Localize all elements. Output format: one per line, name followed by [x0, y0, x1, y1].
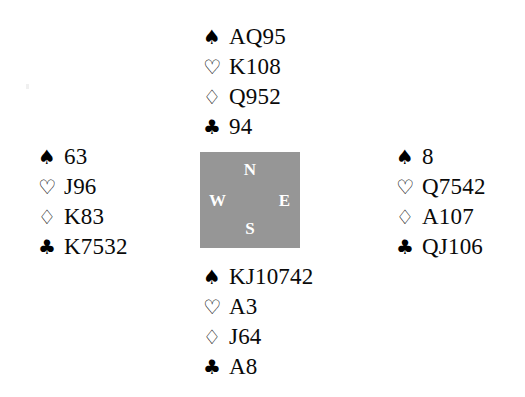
- hand-south-spades: KJ10742: [229, 262, 313, 292]
- hand-west-clubs-row: ♣ K7532: [38, 232, 128, 262]
- club-icon: ♣: [203, 112, 229, 142]
- hand-east-diamonds: A107: [422, 202, 474, 232]
- hand-south-diamonds: J64: [229, 322, 262, 352]
- scan-artifact: [26, 84, 29, 89]
- spade-icon: ♠: [38, 142, 64, 172]
- hand-south-diamonds-row: ♢ J64: [203, 322, 313, 352]
- bridge-hand-diagram: ♠ AQ95 ♡ K108 ♢ Q952 ♣ 94 ♠ 63 ♡ J96 ♢ K…: [0, 0, 525, 397]
- hand-south: ♠ KJ10742 ♡ A3 ♢ J64 ♣ A8: [203, 262, 313, 382]
- club-icon: ♣: [203, 352, 229, 382]
- club-icon: ♣: [38, 232, 64, 262]
- spade-icon: ♠: [203, 262, 229, 292]
- hand-north-spades: AQ95: [229, 22, 286, 52]
- diamond-icon: ♢: [203, 82, 229, 112]
- compass-east-label: E: [279, 192, 290, 209]
- heart-icon: ♡: [396, 172, 422, 202]
- hand-south-spades-row: ♠ KJ10742: [203, 262, 313, 292]
- hand-west-spades: 63: [64, 142, 87, 172]
- hand-north-clubs-row: ♣ 94: [203, 112, 286, 142]
- hand-south-hearts: A3: [229, 292, 258, 322]
- heart-icon: ♡: [38, 172, 64, 202]
- hand-north-clubs: 94: [229, 112, 252, 142]
- hand-east-hearts-row: ♡ Q7542: [396, 172, 486, 202]
- hand-north-diamonds: Q952: [229, 82, 281, 112]
- hand-north-hearts: K108: [229, 52, 281, 82]
- compass-north-label: N: [200, 161, 300, 178]
- hand-west-spades-row: ♠ 63: [38, 142, 128, 172]
- hand-north-hearts-row: ♡ K108: [203, 52, 286, 82]
- spade-icon: ♠: [396, 142, 422, 172]
- hand-west-diamonds-row: ♢ K83: [38, 202, 128, 232]
- club-icon: ♣: [396, 232, 422, 262]
- hand-west-hearts: J96: [64, 172, 97, 202]
- heart-icon: ♡: [203, 52, 229, 82]
- hand-south-clubs: A8: [229, 352, 258, 382]
- hand-east-spades: 8: [422, 142, 434, 172]
- hand-north-spades-row: ♠ AQ95: [203, 22, 286, 52]
- heart-icon: ♡: [203, 292, 229, 322]
- compass-box: N W E S: [200, 152, 300, 248]
- hand-north: ♠ AQ95 ♡ K108 ♢ Q952 ♣ 94: [203, 22, 286, 142]
- diamond-icon: ♢: [203, 322, 229, 352]
- compass-south-label: S: [200, 220, 300, 237]
- hand-west: ♠ 63 ♡ J96 ♢ K83 ♣ K7532: [38, 142, 128, 262]
- hand-south-hearts-row: ♡ A3: [203, 292, 313, 322]
- hand-east: ♠ 8 ♡ Q7542 ♢ A107 ♣ QJ106: [396, 142, 486, 262]
- hand-east-hearts: Q7542: [422, 172, 486, 202]
- hand-west-hearts-row: ♡ J96: [38, 172, 128, 202]
- spade-icon: ♠: [203, 22, 229, 52]
- compass-west-label: W: [209, 192, 226, 209]
- diamond-icon: ♢: [396, 202, 422, 232]
- hand-north-diamonds-row: ♢ Q952: [203, 82, 286, 112]
- hand-west-diamonds: K83: [64, 202, 104, 232]
- hand-east-clubs: QJ106: [422, 232, 483, 262]
- hand-west-clubs: K7532: [64, 232, 128, 262]
- diamond-icon: ♢: [38, 202, 64, 232]
- hand-east-clubs-row: ♣ QJ106: [396, 232, 486, 262]
- hand-east-diamonds-row: ♢ A107: [396, 202, 486, 232]
- hand-south-clubs-row: ♣ A8: [203, 352, 313, 382]
- hand-east-spades-row: ♠ 8: [396, 142, 486, 172]
